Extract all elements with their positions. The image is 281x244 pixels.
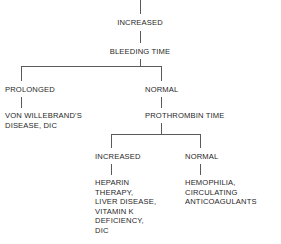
connector-increased-prothrombin-stem (111, 164, 112, 175)
connector-split-2-left-leg (111, 134, 112, 148)
node-von-willebrand-disease: VON WILLEBRAND'S DISEASE, DIC (5, 111, 82, 130)
node-prothrombin-time: PROTHROMBIN TIME (145, 111, 224, 121)
node-heparin-causes: HEPARIN THERAPY, LIVER DISEASE, VITAMIN … (95, 178, 156, 236)
node-hemophilia-causes: HEMOPHILIA, CIRCULATING ANTICOAGULANTS (185, 178, 257, 207)
node-bleeding-time: BLEEDING TIME (110, 47, 170, 57)
node-normal-bleeding-time: NORMAL (145, 85, 178, 95)
connector-normal-prothrombin-stem (200, 164, 201, 175)
connector-root-to-bleeding-time (140, 31, 141, 43)
connector-prolonged-stem (21, 97, 22, 108)
connector-top-stem (140, 0, 141, 14)
node-normal-prothrombin: NORMAL (185, 152, 218, 162)
node-increased-prothrombin: INCREASED (95, 152, 141, 162)
connector-split-2-right-leg (200, 134, 201, 148)
connector-split-1-left-leg (21, 66, 22, 81)
connector-normal-stem (161, 97, 162, 108)
connector-split-2-bar (111, 134, 201, 135)
connector-split-1-bar (21, 66, 162, 67)
node-root-increased: INCREASED (117, 18, 163, 28)
flowchart-diagram: INCREASED BLEEDING TIME PROLONGED NORMAL… (0, 0, 281, 244)
node-prolonged: PROLONGED (5, 85, 55, 95)
connector-split-1-right-leg (161, 66, 162, 81)
